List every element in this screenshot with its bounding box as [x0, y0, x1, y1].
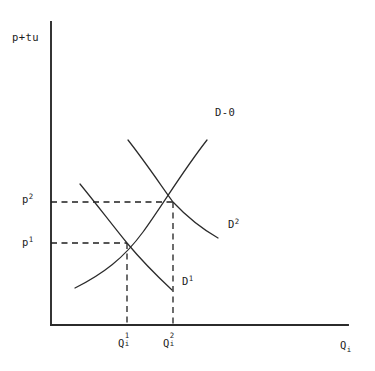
supply-curve-d0	[75, 140, 207, 288]
figure-canvas	[0, 0, 375, 371]
supply-demand-figure: p+tu p2 p1 Q1i Q2i Qi D-0 D2 D1	[0, 0, 375, 371]
price-tick-label-p1: p1	[22, 237, 33, 248]
curves-group	[75, 140, 218, 290]
q1-script-stack: 1i	[125, 336, 131, 347]
axes-group	[51, 22, 348, 325]
demand-curve-2-label: D2	[228, 219, 239, 230]
quantity-tick-label-q2: Q2i	[163, 336, 176, 349]
demand-curve-1-label: D1	[182, 276, 193, 287]
x-axis-label: Qi	[340, 340, 351, 351]
supply-curve-label: D-0	[215, 107, 235, 118]
y-axis-label: p+tu	[12, 32, 39, 43]
demand-curve-d1	[80, 184, 172, 290]
price-tick-label-p2: p2	[22, 194, 33, 205]
guide-lines-group	[51, 202, 173, 325]
quantity-tick-label-q1: Q1i	[118, 336, 131, 349]
q2-script-stack: 2i	[170, 336, 176, 347]
